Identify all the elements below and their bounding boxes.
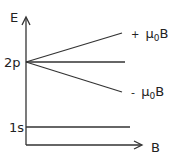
- level-label-2p: 2p: [4, 55, 21, 70]
- energy-level-diagram: E B 2p + μ0B - μ0B 1s: [0, 0, 172, 162]
- lower-split-label: - μ0B: [131, 84, 164, 101]
- level-2p-lower-split: [26, 62, 122, 92]
- y-axis-label: E: [10, 10, 18, 25]
- upper-split-label: + μ0B: [131, 26, 168, 43]
- x-axis-label: B: [151, 140, 160, 155]
- level-label-1s: 1s: [9, 120, 24, 135]
- level-2p-upper-split: [26, 33, 122, 62]
